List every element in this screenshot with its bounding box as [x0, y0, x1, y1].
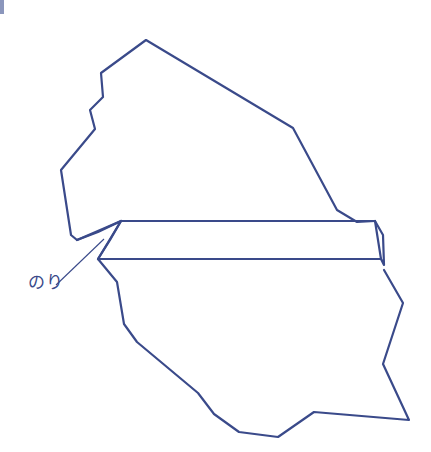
band-strip [98, 221, 381, 259]
diagram-canvas: のり [0, 0, 431, 452]
lower-piece-outline [98, 259, 409, 437]
glue-flap [77, 221, 121, 259]
cutout-diagram [0, 0, 431, 452]
upper-piece-outline [61, 40, 375, 240]
glue-label: のり [28, 268, 64, 293]
